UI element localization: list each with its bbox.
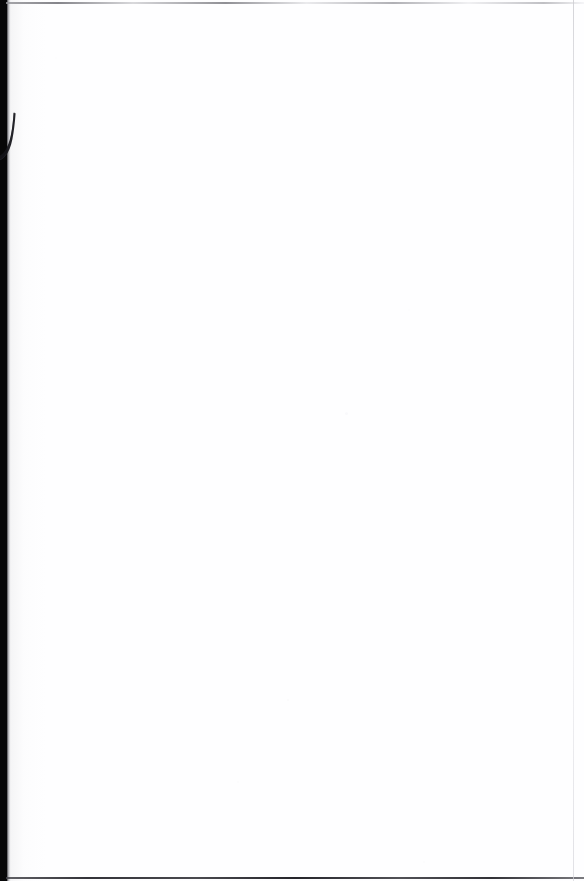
page-edge-line-bottom	[6, 877, 584, 879]
page-edge-line-top	[6, 2, 584, 4]
gutter-edge-feather	[7, 0, 11, 881]
scanner-gutter-shadow	[0, 0, 7, 881]
page-edge-line-right	[573, 0, 574, 881]
page-paper-field	[0, 0, 584, 881]
scanned-page	[0, 0, 584, 881]
